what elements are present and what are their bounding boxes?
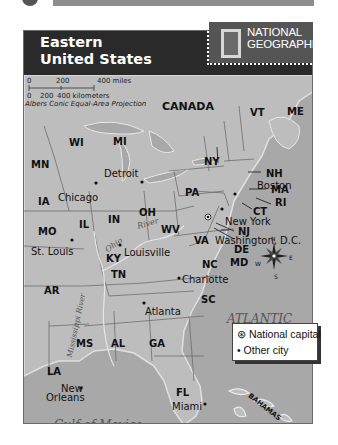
city-detroit: Detroit: [104, 168, 138, 179]
logo-line-2: GEOGRAPHIC: [247, 38, 323, 50]
state-wi: WI: [69, 137, 84, 148]
state-in: IN: [108, 214, 120, 225]
ng-yellow-border-icon: [221, 29, 241, 58]
map-legend: ⊛ National capital • Other city: [232, 323, 318, 361]
scale-km-400: 400 kilometers: [57, 92, 110, 100]
label-gulf-of-mexico: Gulf of Mexico: [54, 420, 143, 424]
state-la: LA: [47, 366, 61, 377]
compass-s: S: [274, 271, 278, 282]
legend-row-city: • Other city: [237, 344, 289, 356]
legend-capital-label: National capital: [249, 328, 321, 340]
scale-miles-0: 0: [27, 77, 31, 85]
legend-city-label: Other city: [244, 344, 289, 356]
projection-label: Albers Conic Equal-Area Projection: [25, 100, 146, 108]
decorative-top-bar: [53, 0, 314, 6]
state-nc: NC: [202, 259, 218, 270]
national-geographic-logo: NATIONAL GEOGRAPHIC: [209, 22, 313, 63]
state-pa: PA: [185, 187, 199, 198]
state-md: MD: [230, 257, 248, 268]
state-nh: NH: [266, 168, 283, 179]
compass-w: W: [255, 258, 261, 269]
city-miami: Miami: [172, 401, 202, 412]
title-line-1: Eastern: [40, 34, 152, 51]
city-louisville: Louisville: [124, 247, 170, 258]
city-charlotte: Charlotte: [182, 274, 228, 285]
map-frame: Eastern United States 0 200 400 miles 0 …: [23, 30, 313, 424]
city-st-louis: St. Louis: [31, 246, 73, 257]
state-tn: TN: [111, 269, 126, 280]
city-new-york: New York: [225, 216, 271, 227]
state-sc: SC: [201, 294, 216, 305]
city-atlanta: Atlanta: [145, 306, 181, 317]
city-boston: Boston: [257, 180, 292, 191]
scale-km-200: 200: [40, 92, 53, 100]
label-canada: CANADA: [162, 101, 214, 112]
scale-miles-400: 400 miles: [97, 77, 131, 85]
scale-km-0: 0: [27, 92, 31, 100]
city-new-orleans-line2: Orleans: [46, 392, 85, 403]
state-ri: RI: [275, 197, 286, 208]
state-ga: GA: [149, 338, 165, 349]
state-mo: MO: [38, 226, 56, 237]
logo-line-1: NATIONAL: [247, 26, 323, 38]
state-ny: NY: [204, 156, 220, 167]
state-mi: MI: [113, 136, 127, 147]
state-fl: FL: [176, 387, 189, 398]
decorative-circle: [22, 0, 38, 6]
state-ar: AR: [44, 285, 59, 296]
state-va: VA: [194, 235, 209, 246]
state-mn: MN: [31, 159, 49, 170]
state-vt: VT: [250, 107, 265, 118]
title-line-2: United States: [40, 51, 152, 68]
state-al: AL: [111, 338, 125, 349]
city-dot-icon: •: [237, 344, 241, 356]
state-wv: WV: [161, 224, 180, 235]
compass-n: N: [271, 233, 276, 244]
map-title: Eastern United States: [40, 34, 152, 68]
state-ia: IA: [38, 196, 49, 207]
legend-row-capital: ⊛ National capital: [237, 328, 321, 340]
scale-miles-200: 200: [56, 77, 69, 85]
compass-e: E: [289, 252, 293, 263]
capital-symbol-icon: ⊛: [237, 328, 246, 340]
state-me: ME: [287, 106, 304, 117]
city-washington-dc: Washington, D.C.: [215, 235, 301, 246]
city-chicago: Chicago: [58, 192, 98, 203]
state-il: IL: [79, 219, 89, 230]
